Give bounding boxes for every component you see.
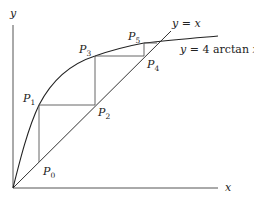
label-p0: P0 — [42, 165, 55, 180]
label-p1: P1 — [22, 92, 35, 107]
y-axis-label: y — [9, 7, 17, 20]
x-axis-label: x — [225, 181, 232, 194]
label-y-equals-x: y = x — [171, 17, 201, 30]
label-p5: P5 — [127, 30, 140, 45]
label-p2: P2 — [97, 106, 110, 121]
cobweb-diagram: y x y = x y = 4 arctan x P0 P1 P2 P3 P4 … — [0, 0, 254, 201]
label-p4: P4 — [146, 58, 159, 73]
label-p3: P3 — [78, 43, 91, 58]
label-4-arctan: y = 4 arctan x — [179, 43, 254, 56]
